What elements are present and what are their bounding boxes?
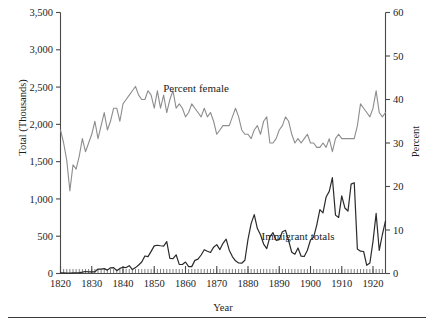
y-right-tick-label: 30 — [393, 138, 404, 149]
y-left-tick-label: 2,000 — [29, 119, 53, 130]
y-right-tick-label: 20 — [393, 181, 404, 192]
y-right-tick-label: 10 — [393, 225, 404, 236]
y-left-tick-label: 2,500 — [29, 82, 53, 93]
y-right-tick-label: 40 — [393, 94, 404, 105]
x-tick-label: 1840 — [113, 278, 134, 289]
x-tick-label: 1860 — [175, 278, 196, 289]
percent-female-label: Percent female — [163, 82, 229, 94]
x-tick-label: 1900 — [300, 278, 321, 289]
x-tick-label: 1890 — [269, 278, 290, 289]
x-tick-label: 1880 — [238, 278, 259, 289]
x-tick-label: 1910 — [331, 278, 352, 289]
y-axis-right-ticks: 0102030405060 — [386, 7, 404, 279]
series-line — [61, 86, 386, 190]
chart-figure: 1820183018401850186018701880189019001910… — [0, 0, 434, 327]
y-right-tick-label: 50 — [393, 51, 404, 62]
x-tick-label: 1870 — [206, 278, 227, 289]
x-tick-label: 1830 — [81, 278, 102, 289]
y-left-tick-label: 1,500 — [29, 156, 53, 167]
axis-lines — [61, 13, 386, 274]
y-left-tick-label: 3,500 — [29, 7, 53, 18]
series-line — [61, 178, 386, 273]
chart-annotations: Percent femaleImmigrant totals — [163, 82, 334, 242]
y-right-tick-label: 60 — [393, 7, 404, 18]
immigrant-totals-label: Immigrant totals — [261, 230, 334, 242]
y-left-tick-label: 0 — [48, 268, 53, 279]
x-tick-label: 1850 — [144, 278, 165, 289]
y-axis-right-title: Percent — [410, 106, 421, 178]
footer-divider — [8, 317, 426, 318]
y-axis-left-title: Total (Thousands) — [17, 70, 28, 166]
y-left-tick-label: 3,000 — [29, 44, 53, 55]
x-tick-label: 1820 — [50, 278, 71, 289]
x-tick-label: 1920 — [363, 278, 384, 289]
y-right-tick-label: 0 — [393, 268, 398, 279]
chart-plot-area: 1820183018401850186018701880189019001910… — [0, 0, 434, 327]
y-axis-left-ticks: 05001,0001,5002,0002,5003,0003,500 — [29, 7, 60, 279]
y-left-tick-label: 1,000 — [29, 194, 53, 205]
data-series-lines — [61, 86, 386, 273]
x-axis-title: Year — [60, 302, 386, 313]
y-left-tick-label: 500 — [37, 231, 53, 242]
